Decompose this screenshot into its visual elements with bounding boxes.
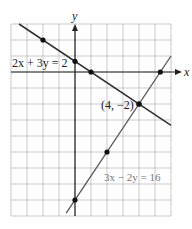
data-point [72,197,77,202]
data-point [104,149,109,154]
intersection-label: (4, −2) [101,98,134,112]
y-axis-label: y [71,9,78,23]
data-point [88,69,93,74]
x-axis-label: x [183,65,190,79]
data-point [136,101,141,106]
data-point [158,69,163,74]
equation-label-1: 2x + 3y = 2 [12,56,68,70]
data-point [72,59,77,64]
grid [11,24,171,216]
data-point [40,37,45,42]
x-axis-arrow-icon [175,69,182,75]
y-axis-arrow-icon [72,24,78,31]
graph: x y 2x + 3y = 2 (4, −2) 3x − 2y = 16 [0,0,192,229]
equation-label-2: 3x − 2y = 16 [104,171,161,183]
